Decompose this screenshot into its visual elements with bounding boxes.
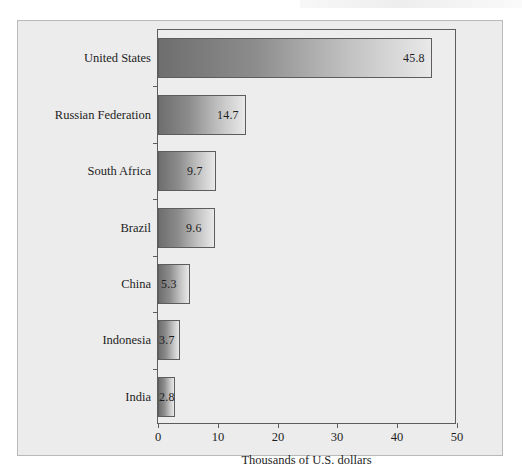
category-label: United States [84,51,151,66]
category-axis-tick [153,143,158,144]
bar-value-label: 3.7 [159,333,175,348]
x-axis-tick [218,423,219,428]
x-axis-tick-label: 30 [331,430,344,445]
plot-frame: 45.8United States14.7Russian Federation9… [157,29,456,424]
category-axis-tick [153,256,158,257]
x-axis-tick [397,423,398,428]
category-label: Russian Federation [55,108,151,123]
category-label: Indonesia [102,333,151,348]
bar-row: 9.7South Africa [158,151,457,191]
x-axis-tick-label: 50 [451,430,464,445]
bar-value-label: 2.8 [159,390,175,405]
bar-value-label: 45.8 [403,51,425,66]
figure-card: 45.8United States14.7Russian Federation9… [17,20,503,456]
category-axis-tick [153,369,158,370]
x-axis-tick [278,423,279,428]
bar-row: 5.3China [158,264,457,304]
bar-row: 3.7Indonesia [158,320,457,360]
category-axis-tick [153,86,158,87]
bar-row: 45.8United States [158,38,457,78]
bar-value-label: 9.6 [186,221,202,236]
category-label: Brazil [120,221,151,236]
bar-value-label: 14.7 [217,108,239,123]
x-axis-title: Thousands of U.S. dollars [157,453,456,468]
scan-artifact [300,0,522,8]
x-axis-tick [457,423,458,428]
bar-row: 14.7Russian Federation [158,95,457,135]
x-axis-tick-label: 20 [272,430,285,445]
category-label: India [125,390,151,405]
bar[interactable] [158,38,432,78]
x-axis-tick [337,423,338,428]
bar-value-label: 5.3 [161,277,177,292]
x-axis-tick [158,423,159,428]
bar-value-label: 9.7 [187,164,203,179]
x-axis-tick-label: 40 [391,430,404,445]
x-axis-tick-label: 10 [212,430,225,445]
category-label: China [121,277,151,292]
plot-area: 45.8United States14.7Russian Federation9… [158,30,455,423]
category-axis-tick [153,199,158,200]
x-axis-tick-label: 0 [155,430,161,445]
category-axis-tick [153,312,158,313]
bar-row: 9.6Brazil [158,208,457,248]
bar-row: 2.8India [158,377,457,417]
category-label: South Africa [87,164,151,179]
